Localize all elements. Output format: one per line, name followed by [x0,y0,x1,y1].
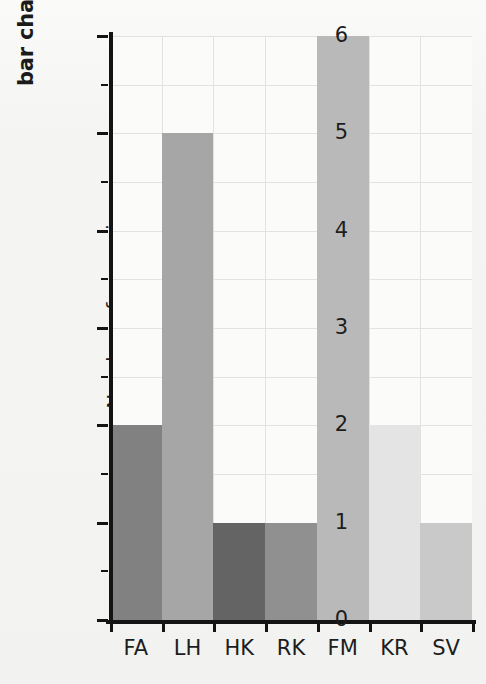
x-tick [162,620,165,632]
x-tick [213,620,216,632]
y-tick-minor [101,181,108,183]
figure-page: bar chart Number of race wins 0123456 FA… [0,0,486,684]
plot-area [110,36,472,620]
y-tick-label: 6 [308,25,348,46]
y-tick-label: 1 [308,512,348,533]
bar-slot-sv [420,36,472,620]
bar-slot-fa [110,36,162,620]
plot-region: 0123456 FALHHKRKFMKRSV [110,36,472,620]
y-tick-major [97,522,108,525]
bar-fa[interactable] [110,425,162,620]
bar-slot-kr [369,36,421,620]
bar-hk[interactable] [213,523,265,620]
y-tick-label: 4 [308,220,348,241]
bar-series [110,36,472,620]
y-tick-label: 2 [308,414,348,435]
y-tick-major [97,424,108,427]
y-tick-minor [101,278,108,280]
x-tick-label-sv: SV [416,638,476,659]
x-tick [369,620,372,632]
x-tick [110,620,113,632]
x-tick [472,620,475,632]
bar-slot-lh [162,36,214,620]
y-tick-label: 0 [308,609,348,630]
y-tick-minor [101,84,108,86]
y-tick-major [97,619,108,622]
y-tick-minor [101,570,108,572]
y-tick-major [97,327,108,330]
bar-lh[interactable] [162,133,214,620]
y-tick-major [97,35,108,38]
y-tick-minor [101,376,108,378]
x-tick [265,620,268,632]
bar-slot-hk [213,36,265,620]
bar-kr[interactable] [369,425,421,620]
y-tick-minor [101,473,108,475]
y-tick-major [97,230,108,233]
x-tick [420,620,423,632]
bar-rk[interactable] [265,523,317,620]
bar-sv[interactable] [420,523,472,620]
y-axis-line [109,32,113,624]
y-tick-label: 5 [308,122,348,143]
y-tick-label: 3 [308,317,348,338]
chart-title: bar chart [6,0,46,86]
y-tick-major [97,132,108,135]
